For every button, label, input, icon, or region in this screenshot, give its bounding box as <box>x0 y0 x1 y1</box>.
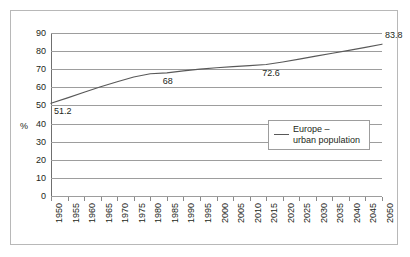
x-tick-label-2050: 2050 <box>386 203 395 223</box>
x-tick-label-2010: 2010 <box>254 203 263 223</box>
data-label-51.2: 51.2 <box>54 107 72 116</box>
x-tick-label-1970: 1970 <box>121 203 130 223</box>
legend-label: Europe – urban population <box>293 124 360 146</box>
legend-line-swatch <box>274 134 289 135</box>
y-tick-label-90: 90 <box>36 29 46 38</box>
x-tick-label-2030: 2030 <box>320 203 329 223</box>
x-tick-label-1985: 1985 <box>171 203 180 223</box>
legend-label-line1: Europe – <box>293 124 360 135</box>
legend-label-line2: urban population <box>293 135 360 146</box>
y-tick-label-40: 40 <box>36 119 46 128</box>
x-tick-2035 <box>332 197 333 201</box>
x-tick-2005 <box>233 197 234 201</box>
x-tick-label-1960: 1960 <box>88 203 97 223</box>
chart-figure: % 9080706050403020100 195019551960196519… <box>0 0 410 257</box>
x-tick-1965 <box>101 197 102 201</box>
x-tick-1995 <box>200 197 201 201</box>
data-label-68: 68 <box>163 77 173 86</box>
data-label-72.6: 72.6 <box>262 69 280 78</box>
x-tick-label-1980: 1980 <box>154 203 163 223</box>
x-tick-1980 <box>150 197 151 201</box>
chart-legend: Europe – urban population <box>268 120 370 150</box>
data-label-83.8: 83.8 <box>385 31 403 40</box>
y-tick-label-20: 20 <box>36 155 46 164</box>
x-tick-1970 <box>117 197 118 201</box>
y-tick-label-50: 50 <box>36 101 46 110</box>
x-tick-2015 <box>266 197 267 201</box>
x-tick-label-2015: 2015 <box>270 203 279 223</box>
x-tick-2025 <box>299 197 300 201</box>
x-tick-1960 <box>84 197 85 201</box>
series-line-europe-urban-population <box>51 33 382 197</box>
y-tick-label-80: 80 <box>36 47 46 56</box>
x-tick-label-2045: 2045 <box>369 203 378 223</box>
x-tick-label-1975: 1975 <box>138 203 147 223</box>
plot-area: 9080706050403020100 19501955196019651970… <box>51 33 382 196</box>
x-tick-label-2000: 2000 <box>221 203 230 223</box>
x-tick-2010 <box>250 197 251 201</box>
x-tick-2045 <box>365 197 366 201</box>
x-tick-label-2005: 2005 <box>237 203 246 223</box>
x-tick-2020 <box>283 197 284 201</box>
x-tick-2050 <box>382 197 383 201</box>
x-tick-label-1955: 1955 <box>72 203 81 223</box>
x-tick-1950 <box>51 197 52 201</box>
x-tick-2040 <box>349 197 350 201</box>
x-tick-label-2035: 2035 <box>336 203 345 223</box>
x-tick-1955 <box>68 197 69 201</box>
y-tick-label-10: 10 <box>36 173 46 182</box>
x-tick-1985 <box>167 197 168 201</box>
y-tick-label-30: 30 <box>36 137 46 146</box>
x-tick-label-1965: 1965 <box>105 203 114 223</box>
x-tick-label-2025: 2025 <box>303 203 312 223</box>
x-tick-2030 <box>316 197 317 201</box>
x-tick-1990 <box>183 197 184 201</box>
x-tick-label-2040: 2040 <box>353 203 362 223</box>
x-tick-1975 <box>134 197 135 201</box>
y-tick-label-70: 70 <box>36 65 46 74</box>
y-tick-label-0: 0 <box>41 192 46 201</box>
x-tick-label-2020: 2020 <box>287 203 296 223</box>
x-tick-label-1995: 1995 <box>204 203 213 223</box>
y-tick-label-60: 60 <box>36 83 46 92</box>
x-tick-label-1990: 1990 <box>187 203 196 223</box>
x-tick-2000 <box>217 197 218 201</box>
x-tick-label-1950: 1950 <box>55 203 64 223</box>
y-axis-title: % <box>20 122 28 131</box>
